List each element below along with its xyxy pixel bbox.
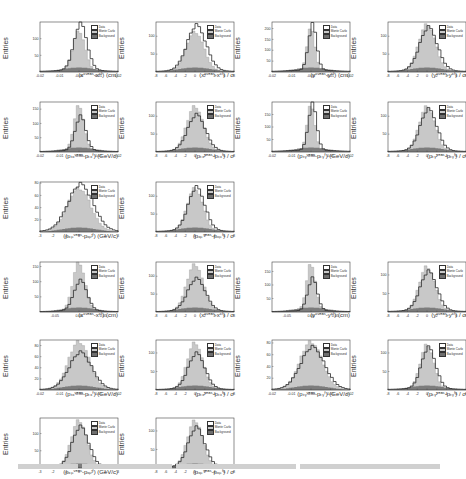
y-tick-label: 50	[383, 370, 387, 374]
legend-swatch	[91, 34, 98, 39]
histogram-panel: Entries-0.02-0.01-0.000.010.0220406080Da…	[2, 318, 118, 398]
legend-swatch	[91, 194, 98, 199]
legend: DataMonte CarloBackground	[439, 105, 463, 119]
legend-entry: Background	[91, 34, 115, 39]
y-tick-label: 100	[149, 351, 155, 355]
y-tick-label: 60	[35, 194, 39, 198]
x-axis-label: (pₜₓᵛᵉᵃˢ-pₜₓᶠ) / σ	[148, 152, 234, 159]
legend-entry: Background	[91, 274, 115, 279]
histogram-plot: -8-6-4-20246850100	[350, 80, 466, 160]
legend: DataMonte CarloBackground	[91, 265, 115, 279]
y-tick-label: 50	[383, 52, 387, 56]
legend: DataMonte CarloBackground	[91, 421, 115, 435]
legend-swatch	[91, 352, 98, 357]
y-tick-label: 50	[383, 292, 387, 296]
legend: DataMonte CarloBackground	[439, 25, 463, 39]
legend-label: Background	[99, 431, 115, 434]
legend-swatch	[91, 430, 98, 435]
y-tick-label: 100	[381, 351, 387, 355]
legend-swatch	[207, 34, 214, 39]
histogram-plot: -8-6-4-20246850100	[118, 80, 234, 160]
figure-caption	[18, 462, 458, 470]
histogram-panel: Entries-0.050.000.0550100150DataMonte Ca…	[234, 240, 350, 320]
histogram-plot: -8-6-4-20246850100	[350, 240, 466, 320]
legend-entry: Background	[439, 34, 463, 39]
legend-swatch	[207, 114, 214, 119]
y-tick-label: 80	[35, 181, 39, 185]
y-tick-label: 100	[381, 273, 387, 277]
legend-label: Background	[331, 115, 347, 118]
y-tick-label: 50	[35, 136, 39, 140]
legend-entry: Background	[439, 274, 463, 279]
y-tick-label: 50	[35, 54, 39, 58]
y-tick-label: 100	[33, 122, 39, 126]
y-tick-label: 100	[33, 432, 39, 436]
legend-label: Background	[99, 195, 115, 198]
y-tick-label: 100	[149, 34, 155, 38]
histogram-plot: -0.02-0.01-0.000.010.0250100150200	[234, 0, 350, 80]
legend-entry: Background	[207, 352, 231, 357]
legend-entry: Background	[323, 352, 347, 357]
y-tick-label: 50	[267, 297, 271, 301]
y-tick-label: 150	[265, 270, 271, 274]
y-tick-label: 50	[151, 212, 155, 216]
legend: DataMonte CarloBackground	[323, 105, 347, 119]
y-tick-label: 100	[33, 37, 39, 41]
histogram-panel: Entries-0.02-0.01-0.000.010.0250100150Da…	[234, 80, 350, 160]
histogram-panel: Entries-8-6-4-20246850100DataMonte Carlo…	[350, 0, 466, 80]
legend-label: Background	[447, 275, 463, 278]
legend-label: Background	[99, 35, 115, 38]
x-axis-label: (pₓₚᵛᵉᵃˢ-pₓₚᶠ) (GeV/c)	[32, 232, 118, 239]
legend-entry: Background	[91, 114, 115, 119]
x-axis-label: (xᶜᵛᵉᵃˢ-xᶜᶠ) (cm)	[32, 72, 118, 78]
x-axis-label: (pₜᵧᵛᵉᵃˢ-pₜᵧᶠ) (GeV/c)	[264, 390, 350, 397]
legend-swatch	[207, 274, 214, 279]
legend-label: Background	[215, 195, 231, 198]
caption-text-blurred	[176, 464, 296, 469]
y-tick-label: 50	[151, 292, 155, 296]
legend: DataMonte CarloBackground	[91, 25, 115, 39]
y-tick-label: 50	[267, 59, 271, 63]
legend-entry: Background	[439, 352, 463, 357]
legend-entry: Background	[207, 274, 231, 279]
legend: DataMonte CarloBackground	[207, 185, 231, 199]
y-tick-label: 100	[149, 114, 155, 118]
histogram-plot: -0.02-0.01-0.000.010.0220406080	[2, 318, 118, 398]
legend: DataMonte CarloBackground	[207, 265, 231, 279]
legend-entry: Background	[323, 274, 347, 279]
legend-swatch	[439, 34, 446, 39]
y-tick-label: 100	[265, 48, 271, 52]
legend-swatch	[207, 430, 214, 435]
y-tick-label: 40	[35, 206, 39, 210]
legend-swatch	[323, 114, 330, 119]
legend-entry: Background	[91, 194, 115, 199]
caption-text-blurred	[18, 464, 78, 469]
legend-entry: Background	[207, 34, 231, 39]
legend-swatch	[439, 114, 446, 119]
y-tick-label: 50	[35, 295, 39, 299]
histogram-panel: Entries-0.02-0.01-0.000.010.0220406080Da…	[234, 318, 350, 398]
legend-swatch	[91, 274, 98, 279]
legend-label: Background	[99, 353, 115, 356]
x-axis-label: (yᶜᵛᵉᵃˢ-yᶜᶠ) / σ	[380, 72, 466, 78]
legend-entry: Background	[91, 352, 115, 357]
histogram-plot: -0.02-0.01-0.000.010.0220406080	[234, 318, 350, 398]
histogram-panel: Entries-8-6-4-20246850100DataMonte Carlo…	[118, 0, 234, 80]
histogram-plot: -3-2-1012320406080	[2, 160, 118, 240]
y-tick-label: 150	[33, 265, 39, 269]
legend-entry: Background	[323, 114, 347, 119]
y-tick-label: 100	[149, 274, 155, 278]
histogram-plot: -8-6-4-20246850100	[118, 240, 234, 320]
histogram-panel: Entries-0.050.000.0550100150DataMonte Ca…	[2, 240, 118, 320]
legend-label: Background	[99, 115, 115, 118]
legend-entry: Background	[91, 430, 115, 435]
y-tick-label: 200	[265, 27, 271, 31]
legend-swatch	[207, 194, 214, 199]
x-axis-label: (pₓₚᵛᵉᵃˢ-pₓₚᶠ) / σ	[148, 232, 234, 239]
y-tick-label: 100	[33, 280, 39, 284]
caption-text-blurred	[82, 464, 172, 469]
y-tick-label: 100	[381, 114, 387, 118]
y-tick-label: 100	[265, 283, 271, 287]
legend-entry: Background	[207, 114, 231, 119]
y-tick-label: 60	[267, 353, 271, 357]
